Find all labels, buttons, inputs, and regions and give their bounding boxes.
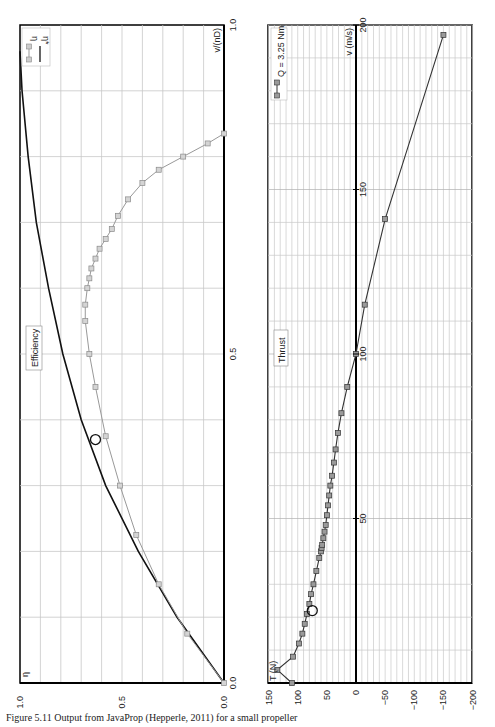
- thrust-point: [314, 569, 319, 574]
- thrust-point: [339, 411, 344, 416]
- efficiency-y-label: η: [20, 672, 30, 677]
- thrust-t-tick: 150: [264, 690, 274, 705]
- eta-point: [134, 532, 139, 537]
- eff-y-tick-0: 0.0: [219, 696, 229, 709]
- eta-point: [97, 246, 102, 251]
- thrust-x-label: v (m/s): [344, 28, 354, 56]
- thrust-gridlines: [268, 25, 473, 683]
- eff-x-tick-0: 0.0: [228, 677, 238, 690]
- eta-point: [126, 197, 131, 202]
- thrust-t-tick: −200: [468, 690, 478, 710]
- figure-canvas: η η* Efficiency v/(nD) η 0.0 0.5 1.0 0.0…: [0, 0, 495, 727]
- efficiency-legend: η η*: [22, 28, 51, 66]
- thrust-point: [321, 536, 326, 541]
- thrust-point: [309, 592, 314, 597]
- eta-point: [87, 276, 92, 281]
- thrust-point: [324, 513, 329, 518]
- eta-point: [156, 167, 161, 172]
- thrust-point: [326, 503, 331, 508]
- thrust-title: Thrust: [277, 337, 287, 363]
- thrust-point: [289, 681, 294, 686]
- eta-point: [103, 236, 108, 241]
- eta-point: [93, 384, 98, 389]
- eta-point: [185, 631, 190, 636]
- thrust-point: [291, 654, 296, 659]
- efficiency-title: Efficiency: [30, 328, 40, 367]
- eta-point: [83, 319, 88, 324]
- thrust-point: [322, 529, 327, 534]
- thrust-point: [335, 430, 340, 435]
- thrust-point: [345, 384, 350, 389]
- eta-legend-marker: [27, 44, 32, 49]
- legend-eta-label: η: [30, 36, 40, 41]
- thrust-v-tick: 200: [358, 17, 368, 32]
- thrust-point: [300, 631, 305, 636]
- thrust-point: [330, 473, 335, 478]
- thrust-v-tick: 100: [358, 346, 368, 361]
- eff-x-tick-mid: 0.5: [228, 348, 238, 361]
- thrust-t-ticks: 150100500−50−100−150−200: [264, 690, 478, 710]
- thrust-point: [323, 523, 328, 528]
- thrust-t-tick: 50: [322, 690, 332, 700]
- figure-caption: Figure 5.11 Output from JavaProp (Hepper…: [6, 712, 495, 723]
- eta-point: [87, 352, 92, 357]
- thrust-point: [320, 542, 325, 547]
- thrust-title-box: Thrust: [274, 330, 288, 366]
- thrust-v-tick: 50: [358, 513, 368, 523]
- efficiency-chart: η η* Efficiency v/(nD) η 0.0 0.5 1.0 0.0…: [15, 19, 238, 709]
- eta-point: [222, 681, 227, 686]
- eff-y-tick-max: 1.0: [15, 696, 25, 709]
- eta-point: [117, 483, 122, 488]
- thrust-chart: Q = 3.25 Nm Thrust v (m/s) T (N) 5010015…: [264, 17, 478, 710]
- eta-point: [85, 286, 90, 291]
- eta-point: [140, 180, 145, 185]
- eff-x-tick-max: 1.0: [228, 19, 238, 32]
- eta-point: [156, 582, 161, 587]
- eff-y-tick-mid: 0.5: [117, 696, 127, 709]
- thrust-point: [302, 621, 307, 626]
- thrust-t-tick: 0: [351, 690, 361, 695]
- eta-point: [222, 131, 227, 136]
- eta-point: [115, 213, 120, 218]
- thrust-v-tick: 150: [358, 182, 368, 197]
- thrust-point: [331, 460, 336, 465]
- eta-point: [103, 434, 108, 439]
- efficiency-x-label: v/(nD): [212, 28, 222, 53]
- thrust-point: [333, 447, 338, 452]
- thrust-point: [317, 555, 322, 560]
- efficiency-title-box: Efficiency: [26, 326, 42, 370]
- thrust-t-tick: −50: [380, 690, 390, 705]
- thrust-point: [383, 217, 388, 222]
- thrust-point: [327, 493, 332, 498]
- thrust-point: [296, 641, 301, 646]
- thrust-t-tick: 100: [293, 690, 303, 705]
- thrust-legend: Q = 3.25 Nm: [271, 26, 287, 100]
- legend-eta-star-label: η*: [41, 36, 51, 45]
- eta-legend-marker: [27, 57, 32, 62]
- thrust-y-label: T (N): [268, 661, 278, 681]
- eta-point: [205, 141, 210, 146]
- thrust-t-tick: −100: [409, 690, 419, 710]
- eta-point: [181, 154, 186, 159]
- thrust-point: [441, 32, 446, 37]
- thrust-point: [362, 302, 367, 307]
- eta-point: [93, 256, 98, 261]
- thrust-point: [328, 483, 333, 488]
- eta-point: [109, 226, 114, 231]
- eta-point: [89, 266, 94, 271]
- eta-point: [83, 302, 88, 307]
- thrust-legend-label: Q = 3.25 Nm: [276, 26, 286, 77]
- thrust-t-tick: −150: [438, 690, 448, 710]
- thrust-point: [311, 582, 316, 587]
